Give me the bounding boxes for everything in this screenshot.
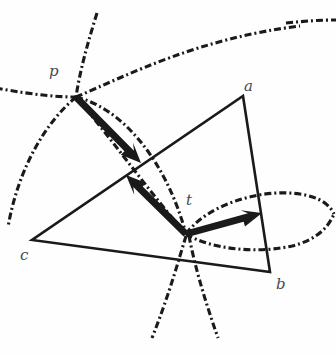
arc-lens-t-lower xyxy=(186,214,334,250)
arc-p-upper-right-long xyxy=(76,26,300,97)
point-label-c: c xyxy=(20,248,28,263)
triangle-outline xyxy=(32,96,270,272)
arc-top-right-fragment xyxy=(286,20,336,23)
point-label-b: b xyxy=(276,277,286,292)
arc-t-down-left xyxy=(152,236,186,338)
diagram-canvas xyxy=(0,0,336,355)
point-label-a: a xyxy=(244,79,253,94)
arc-t-down-right xyxy=(189,236,218,338)
geometry-figure: p a b c t xyxy=(0,0,336,355)
point-label-t: t xyxy=(186,193,192,208)
triangle-abc xyxy=(32,96,270,272)
point-label-p: p xyxy=(49,64,59,79)
arrow-t-to-right xyxy=(185,210,262,237)
arrow-t-to-upper-left xyxy=(126,175,188,237)
direction-arrows xyxy=(74,95,262,238)
arc-p-left-horizontal xyxy=(0,88,76,97)
arc-p-down-left xyxy=(8,97,76,227)
arc-p-vertical-up xyxy=(76,13,97,97)
